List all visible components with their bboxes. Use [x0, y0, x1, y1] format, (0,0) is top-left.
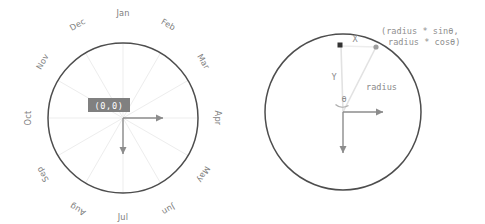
origin-chip: (0,0) [88, 98, 130, 112]
top-square-marker [338, 43, 343, 48]
formula-line-1: (radius * sinθ, [381, 26, 459, 36]
month-label-may: May [195, 164, 212, 184]
spoke-jun [123, 118, 161, 183]
month-label-jul: Jul [117, 212, 128, 222]
month-label-aug: Aug [68, 201, 87, 218]
x-leg-line [341, 46, 376, 47]
month-label-oct: Oct [23, 110, 33, 125]
formula-line-2: radius * cosθ) [388, 37, 460, 47]
month-label-jun: Jun [160, 201, 177, 217]
right-trig-circle-group: X Y θ radius (radius * sinθ, radius * co… [265, 26, 460, 190]
theta-label: θ [341, 94, 346, 104]
figure-canvas: (0,0) Jan Feb Mar Apr May Jun Jul Aug Se… [0, 0, 485, 224]
radius-hypotenuse-line [343, 47, 376, 112]
left-month-circle-group: (0,0) Jan Feb Mar Apr May Jun Jul Aug Se… [23, 8, 223, 222]
spoke-sep [58, 118, 123, 156]
spoke-aug [86, 118, 124, 183]
circles-diagram-svg: (0,0) Jan Feb Mar Apr May Jun Jul Aug Se… [0, 0, 485, 224]
x-leg-label: X [352, 34, 358, 44]
month-label-feb: Feb [159, 16, 177, 32]
circumference-point-marker [373, 44, 378, 49]
month-label-sep: Sep [34, 165, 51, 184]
spoke-may [123, 118, 188, 156]
month-label-nov: Nov [34, 52, 51, 71]
month-label-jan: Jan [115, 8, 129, 18]
month-label-dec: Dec [68, 16, 87, 33]
radius-label: radius [366, 82, 397, 92]
month-label-mar: Mar [195, 52, 212, 71]
spoke-mar [123, 81, 188, 119]
origin-chip-label: (0,0) [95, 101, 124, 111]
y-leg-label: Y [331, 72, 337, 82]
month-label-apr: Apr [213, 111, 223, 126]
